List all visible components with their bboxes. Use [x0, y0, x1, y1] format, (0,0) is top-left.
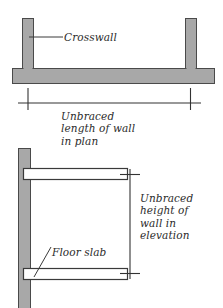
elevation-view-group	[19, 149, 141, 308]
unbraced-length-dimension	[18, 88, 201, 110]
caption-line: height of	[140, 204, 193, 216]
floor-slab-lower-shape	[24, 269, 128, 280]
caption-line: Unbraced	[61, 110, 135, 122]
diagram-canvas	[0, 0, 223, 308]
crosswall-right-joint-mask	[187, 67, 196, 71]
unbraced-height-dimension	[120, 169, 140, 279]
caption-line: Unbraced	[140, 192, 193, 204]
caption-line: wall in	[140, 217, 193, 229]
crosswall-left-shape	[23, 19, 34, 69]
floor-slab-label: Floor slab	[52, 246, 106, 258]
unbraced-length-caption: Unbraced length of wall in plan	[61, 110, 135, 147]
main-wall-plan-shape	[13, 69, 215, 84]
unbraced-height-caption: Unbraced height of wall in elevation	[140, 192, 193, 242]
crosswall-left-joint-mask	[24, 67, 33, 71]
wall-bracing-diagram: Crosswall Unbraced length of wall in pla…	[0, 0, 223, 308]
caption-line: in plan	[61, 135, 135, 147]
caption-line: elevation	[140, 229, 193, 241]
crosswall-right-shape	[186, 19, 197, 69]
floor-slab-upper-shape	[24, 169, 128, 180]
caption-line: length of wall	[61, 122, 135, 134]
crosswall-label: Crosswall	[64, 31, 117, 43]
